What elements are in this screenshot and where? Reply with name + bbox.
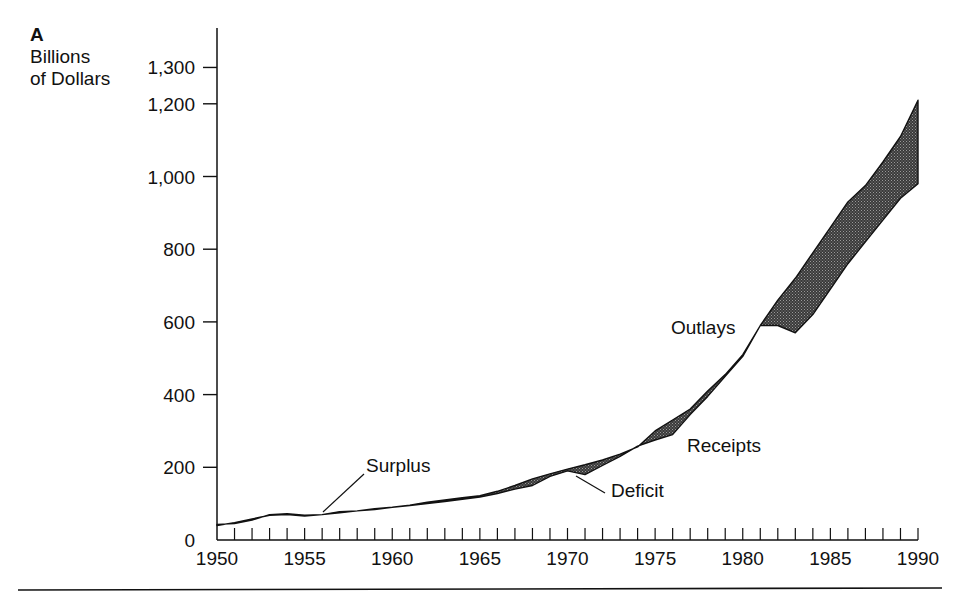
surplus-leader-line bbox=[323, 474, 364, 512]
x-tick-label: 1990 bbox=[897, 548, 939, 569]
y-tick-label: 400 bbox=[163, 385, 195, 406]
x-tick-label: 1955 bbox=[283, 548, 325, 569]
annotations: SurplusDeficitOutlaysReceipts bbox=[323, 317, 761, 512]
outlays-label: Outlays bbox=[671, 317, 735, 338]
bottom-rule bbox=[18, 588, 942, 590]
x-tick-label: 1950 bbox=[196, 548, 238, 569]
x-tick-label: 1985 bbox=[809, 548, 851, 569]
x-tick-label: 1975 bbox=[634, 548, 676, 569]
y-tick-label: 600 bbox=[163, 312, 195, 333]
deficit-leader-line bbox=[576, 476, 605, 493]
y-tick-label: 0 bbox=[184, 530, 195, 551]
y-tick-label: 200 bbox=[163, 457, 195, 478]
deficit-label: Deficit bbox=[611, 480, 665, 501]
x-tick-label: 1980 bbox=[722, 548, 764, 569]
surplus-label: Surplus bbox=[366, 455, 430, 476]
x-tick-label: 1965 bbox=[459, 548, 501, 569]
deficit-chart: 1950195519601965197019751980198519900200… bbox=[0, 0, 961, 602]
receipts-label: Receipts bbox=[687, 435, 761, 456]
y-tick-label: 1,000 bbox=[147, 167, 195, 188]
deficit-area bbox=[217, 100, 918, 525]
x-tick-label: 1970 bbox=[546, 548, 588, 569]
x-tick-label: 1960 bbox=[371, 548, 413, 569]
outlays-receipts-band bbox=[217, 100, 918, 525]
y-tick-label: 800 bbox=[163, 239, 195, 260]
y-tick-label: 1,200 bbox=[147, 94, 195, 115]
y-tick-label: 1,300 bbox=[147, 57, 195, 78]
